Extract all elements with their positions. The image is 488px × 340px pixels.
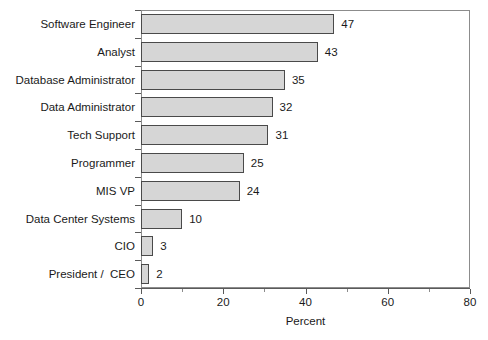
category-label: Programmer bbox=[0, 157, 135, 169]
x-axis-tick bbox=[141, 289, 142, 294]
bar-chart: Software EngineerAnalystDatabase Adminis… bbox=[0, 0, 488, 340]
bar-value-label: 43 bbox=[325, 46, 338, 58]
y-axis-tick bbox=[135, 38, 141, 39]
x-axis-tick bbox=[388, 289, 389, 294]
bar-value-label: 25 bbox=[251, 157, 264, 169]
bar-value-label: 2 bbox=[156, 268, 162, 280]
category-label: MIS VP bbox=[0, 185, 135, 197]
y-axis-tick bbox=[135, 93, 141, 94]
category-label: President / CEO bbox=[0, 268, 135, 280]
category-label: Software Engineer bbox=[0, 18, 135, 30]
bar bbox=[141, 42, 318, 62]
x-axis-minor-tick bbox=[264, 289, 265, 292]
y-axis-tick bbox=[135, 260, 141, 261]
y-axis-tick bbox=[135, 205, 141, 206]
y-axis-tick bbox=[135, 149, 141, 150]
x-axis-tick bbox=[306, 289, 307, 294]
y-axis-tick bbox=[135, 10, 141, 11]
bar bbox=[141, 209, 182, 229]
y-axis-tick bbox=[135, 177, 141, 178]
bar-value-label: 32 bbox=[280, 101, 293, 113]
bar-value-label: 24 bbox=[247, 185, 260, 197]
category-label: Database Administrator bbox=[0, 74, 135, 86]
footer-artifact-text bbox=[355, 333, 485, 340]
y-axis-tick bbox=[135, 288, 141, 289]
category-axis: Software EngineerAnalystDatabase Adminis… bbox=[0, 10, 135, 288]
category-label: Data Center Systems bbox=[0, 213, 135, 225]
category-label: Tech Support bbox=[0, 129, 135, 141]
bar bbox=[141, 125, 268, 145]
bars-layer: 474335323125241032 bbox=[141, 10, 470, 288]
x-axis-minor-tick bbox=[347, 289, 348, 292]
bar bbox=[141, 264, 149, 284]
bar bbox=[141, 181, 240, 201]
bar-value-label: 47 bbox=[341, 18, 354, 30]
bar-value-label: 35 bbox=[292, 74, 305, 86]
x-axis-tick-label: 80 bbox=[450, 296, 488, 309]
y-axis-tick bbox=[135, 232, 141, 233]
bar bbox=[141, 97, 273, 117]
bar bbox=[141, 153, 244, 173]
y-axis-tick bbox=[135, 66, 141, 67]
x-axis-tick-label: 60 bbox=[368, 296, 408, 309]
y-axis-tick bbox=[135, 121, 141, 122]
bar-value-label: 31 bbox=[275, 129, 288, 141]
category-label: CIO bbox=[0, 240, 135, 252]
x-axis-tick-label: 20 bbox=[203, 296, 243, 309]
bar-value-label: 10 bbox=[189, 213, 202, 225]
bar bbox=[141, 236, 153, 256]
x-axis-minor-tick bbox=[429, 289, 430, 292]
x-axis-minor-tick bbox=[182, 289, 183, 292]
category-label: Analyst bbox=[0, 46, 135, 58]
x-axis-tick bbox=[223, 289, 224, 294]
category-label: Data Administrator bbox=[0, 101, 135, 113]
bar bbox=[141, 14, 334, 34]
x-axis-tick bbox=[470, 289, 471, 294]
bar bbox=[141, 70, 285, 90]
x-axis-tick-label: 40 bbox=[286, 296, 326, 309]
x-axis-title: Percent bbox=[141, 315, 470, 328]
bar-value-label: 3 bbox=[160, 240, 166, 252]
x-axis-tick-label: 0 bbox=[121, 296, 161, 309]
